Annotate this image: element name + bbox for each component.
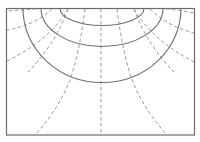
field-diagram (0, 0, 200, 142)
field-line-right-4 (150, 9, 194, 33)
diagram-frame (7, 9, 195, 136)
field-line-right-5 (166, 9, 194, 13)
field-lines (7, 9, 194, 135)
field-line-right-2 (134, 9, 174, 72)
diagram-svg (0, 0, 200, 142)
equipotential-arc-middle (41, 9, 163, 47)
equipotential-arc-outer (23, 9, 181, 83)
field-line-left-5 (7, 9, 36, 11)
equipotential-arcs (23, 9, 181, 83)
equipotential-arc-inner (60, 9, 144, 26)
field-line-left-4 (7, 9, 52, 30)
